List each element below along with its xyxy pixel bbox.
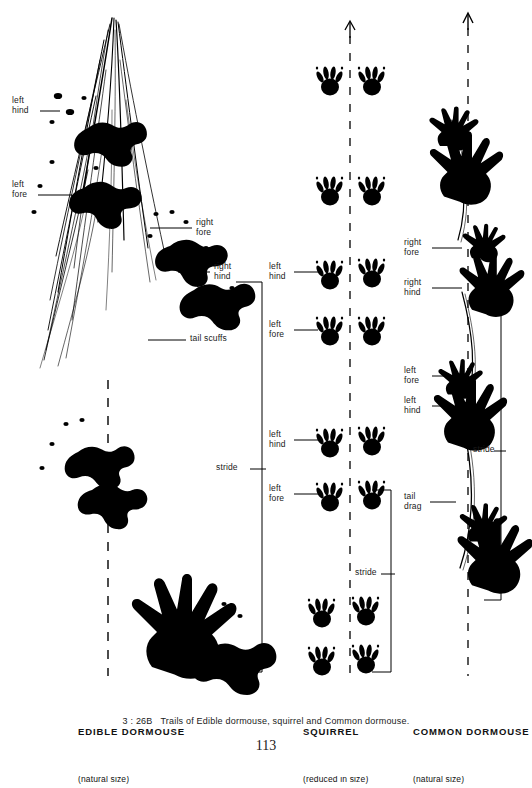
column-name: EDIBLE DORMOUSE <box>78 726 185 737</box>
figure-caption: 3 : 26B Trails of Edible dormouse, squir… <box>0 716 532 726</box>
annotation-cd-tail-drag: tail drag <box>404 492 422 511</box>
squirrel-paw <box>307 646 336 675</box>
arrow-common-dormouse <box>463 13 473 30</box>
annotation-sq-left-hind: left hind <box>269 262 286 281</box>
annotation-cd-right-hind: right hind <box>404 278 421 297</box>
track-claw <box>203 606 208 610</box>
track-claw <box>49 120 54 124</box>
track-claw <box>241 652 246 656</box>
annotation-sq-left-fore: left fore <box>269 320 284 339</box>
squirrel-paw <box>315 482 344 511</box>
squirrel-paw <box>351 644 380 673</box>
track-claw <box>93 166 98 170</box>
page-number: 113 <box>0 738 532 754</box>
squirrel-paw <box>315 176 344 205</box>
squirrel-paw <box>315 66 344 95</box>
squirrel-paw <box>357 258 386 287</box>
squirrel-paw <box>357 480 386 509</box>
track-claw <box>81 96 86 100</box>
annotation-ed-tail-scuffs: tail scuffs <box>190 334 227 344</box>
squirrel-paw <box>315 316 344 345</box>
squirrel-paw <box>357 66 386 95</box>
cd-print-hind <box>460 252 525 317</box>
track-claw <box>79 418 84 422</box>
column-name: COMMON DORMOUSE <box>413 726 529 737</box>
track-claw <box>66 109 74 115</box>
track-claw <box>169 210 174 214</box>
annotation-cd-left-hind: left hind <box>404 396 421 415</box>
track-claw <box>115 518 120 522</box>
annotation-sq-stride: stride <box>355 568 377 578</box>
annotation-sq-left-hind-2: left hind <box>269 430 286 449</box>
track-claw <box>49 442 54 446</box>
track-claw <box>37 184 42 188</box>
annotation-ed-left-hind: left hind <box>12 96 29 115</box>
common-dormouse-trail <box>429 13 532 676</box>
track-claw <box>183 220 188 224</box>
cd-print-fore <box>463 224 506 262</box>
squirrel-paw <box>351 596 380 625</box>
track-claw <box>31 210 36 214</box>
annotation-ed-left-fore: left fore <box>12 180 27 199</box>
track-claw <box>237 614 242 618</box>
track-claw <box>153 212 158 216</box>
edible-dormouse-trail <box>31 18 276 695</box>
track-claw <box>39 466 44 470</box>
track-claw <box>109 464 114 468</box>
track-claw <box>49 160 54 164</box>
track-claw <box>221 602 226 606</box>
squirrel-paw <box>357 176 386 205</box>
bracket-squirrel <box>372 490 395 672</box>
squirrel-paw <box>315 428 344 457</box>
bracket-edible-dormouse <box>236 282 266 672</box>
track-claw <box>183 632 188 636</box>
track-left-hind-2 <box>65 446 135 489</box>
track-claw <box>229 286 234 290</box>
track-claw <box>203 246 208 250</box>
squirrel-paw <box>315 260 344 289</box>
squirrel-paw <box>357 426 386 455</box>
squirrel-trail <box>294 21 395 676</box>
page-edge <box>0 760 532 776</box>
leader-lines <box>294 272 318 494</box>
annotation-cd-right-fore: right fore <box>404 238 421 257</box>
cd-print-hind <box>434 377 507 450</box>
squirrel-paw <box>307 598 336 627</box>
column-name: SQUIRREL <box>303 726 368 737</box>
annotation-ed-right-hind: right hind <box>214 262 231 281</box>
track-right-hind-1 <box>180 284 256 331</box>
annotation-ed-right-fore: right fore <box>196 218 213 237</box>
annotation-sq-left-fore-2: left fore <box>269 484 284 503</box>
arrow-squirrel <box>345 21 355 38</box>
track-claw <box>54 93 62 99</box>
annotation-ed-stride: stride <box>216 463 238 473</box>
annotation-cd-left-fore: left fore <box>404 366 419 385</box>
squirrel-paw <box>357 316 386 345</box>
track-claw <box>147 234 152 238</box>
annotation-cd-stride: stride <box>473 445 495 455</box>
track-claw <box>63 422 68 426</box>
track-left-fore-2 <box>78 484 148 529</box>
